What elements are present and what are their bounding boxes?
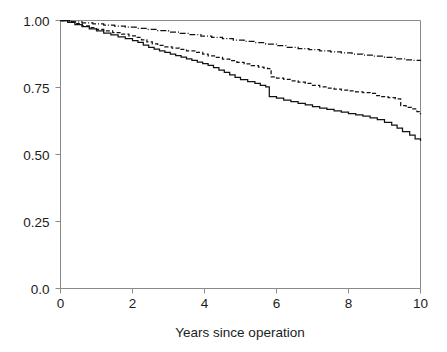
figure-container: 0246810 0.00.250.500.751.00 Years since … [0,0,447,352]
x-tick-label-2: 2 [129,296,137,311]
y-tick-label-0.0: 0.0 [31,282,50,297]
y-tick-label-0.75: 0.75 [23,81,49,96]
kaplan-meier-chart: 0246810 0.00.250.500.751.00 Years since … [0,0,447,352]
x-tick-label-0: 0 [57,296,65,311]
y-tick-label-0.25: 0.25 [23,215,49,230]
x-tick-label-8: 8 [345,296,353,311]
x-tick-label-10: 10 [413,296,428,311]
y-tick-label-0.50: 0.50 [23,148,49,163]
y-tick-label-1.00: 1.00 [23,14,49,29]
chart-background [0,0,447,352]
x-axis-title: Years since operation [175,325,304,340]
x-tick-label-4: 4 [201,296,209,311]
x-tick-label-6: 6 [273,296,281,311]
